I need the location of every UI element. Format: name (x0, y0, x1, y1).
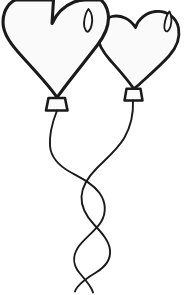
right-balloon-knot (125, 89, 143, 101)
heart-balloons-illustration (0, 0, 185, 295)
artboard: Two Heart Balloons heart-shaped-balloons… (0, 0, 185, 295)
left-balloon-knot (46, 98, 68, 111)
